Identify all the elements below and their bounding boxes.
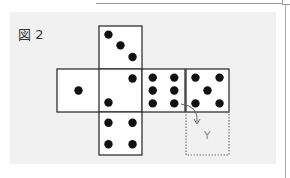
pip bbox=[74, 86, 82, 94]
pip bbox=[104, 30, 112, 38]
pip bbox=[128, 140, 136, 148]
pip bbox=[149, 86, 157, 94]
pip bbox=[149, 99, 157, 107]
pip bbox=[215, 99, 223, 107]
unknown-face-label: Y bbox=[203, 129, 211, 142]
pip bbox=[170, 99, 178, 107]
pip bbox=[128, 119, 136, 127]
pip bbox=[128, 74, 136, 82]
dice-net-diagram: Y bbox=[0, 0, 290, 178]
pip bbox=[170, 86, 178, 94]
pip bbox=[104, 140, 112, 148]
pip bbox=[149, 73, 157, 81]
pip bbox=[104, 98, 112, 106]
pip bbox=[191, 73, 199, 81]
pip bbox=[215, 73, 223, 81]
pip bbox=[104, 119, 112, 127]
die-face-right-1 bbox=[142, 69, 185, 112]
pip bbox=[170, 73, 178, 81]
pip bbox=[128, 53, 136, 61]
pip bbox=[203, 86, 211, 94]
pip bbox=[191, 99, 199, 107]
die-face-bottom bbox=[99, 112, 142, 155]
pip bbox=[116, 41, 124, 49]
die-face-center bbox=[99, 69, 142, 112]
